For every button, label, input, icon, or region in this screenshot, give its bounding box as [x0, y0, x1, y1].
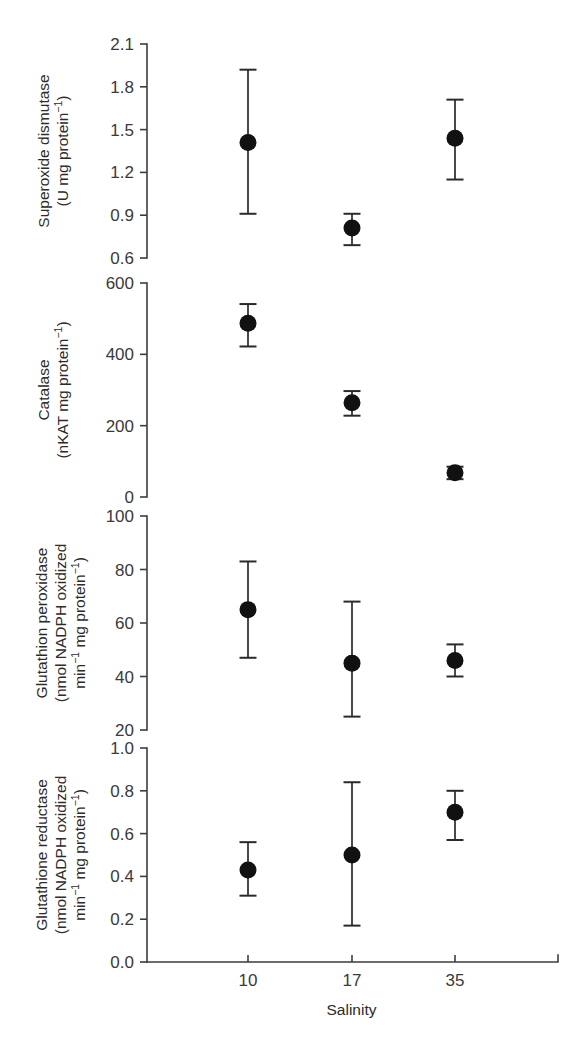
y-tick-label: 0.2: [110, 910, 134, 929]
data-point-group: [344, 214, 361, 245]
data-point-group: [447, 464, 464, 481]
y-tick-label: 1.8: [110, 78, 134, 97]
data-point-group: [240, 70, 257, 214]
y-axis-title-line: min−1 mg protein−1): [69, 789, 88, 921]
panel-catalase: 0200400600: [106, 274, 464, 507]
data-point-group: [344, 602, 361, 717]
data-marker: [240, 601, 257, 618]
data-marker: [344, 655, 361, 672]
data-marker: [344, 847, 361, 864]
data-marker: [447, 130, 464, 147]
panel-glutathione-reductase: 0.00.20.40.60.81.0: [110, 739, 463, 972]
y-tick-label: 600: [106, 274, 134, 293]
x-tick-label: 17: [343, 971, 362, 990]
y-tick-label: 200: [106, 417, 134, 436]
y-tick-label: 0.0: [110, 953, 134, 972]
data-point-group: [240, 842, 257, 896]
panel-glutathion-peroxidase: 20406080100: [106, 507, 464, 740]
y-axis-title-line: (nKAT mg protein−1): [52, 321, 71, 458]
figure-panel-stack: 0.60.91.21.51.82.10200400600204060801000…: [0, 0, 586, 1052]
y-axis-title-line: Superoxide dismutase: [35, 74, 52, 227]
y-axis-title-line: min−1 mg protein−1): [69, 557, 88, 689]
data-marker: [447, 464, 464, 481]
y-tick-label: 80: [115, 561, 134, 580]
y-tick-label: 0.6: [110, 825, 134, 844]
data-point-group: [344, 391, 361, 416]
y-axis-title-glutathion-peroxidase: Glutathion peroxidase(nmol NADPH oxidize…: [33, 544, 88, 703]
data-marker: [344, 394, 361, 411]
y-tick-label: 0: [125, 488, 134, 507]
y-tick-label: 400: [106, 345, 134, 364]
x-tick-label: 10: [239, 971, 258, 990]
data-point-group: [344, 782, 361, 925]
y-axis-title-line: (nmol NADPH oxidized: [52, 544, 69, 703]
data-marker: [447, 652, 464, 669]
y-axis-title-superoxide-dismutase: Superoxide dismutase(U mg protein−1): [35, 74, 71, 227]
multi-panel-scatter-chart: 0.60.91.21.51.82.10200400600204060801000…: [0, 0, 586, 1052]
y-tick-label: 0.9: [110, 206, 134, 225]
y-tick-label: 0.4: [110, 867, 134, 886]
y-axis-title-line: (nmol NADPH oxidized: [52, 776, 69, 935]
x-axis: 101735Salinity: [147, 955, 558, 1018]
data-point-group: [240, 304, 257, 346]
y-axis-title-line: (U mg protein−1): [52, 95, 71, 206]
data-marker: [240, 134, 257, 151]
y-tick-label: 0.6: [110, 249, 134, 268]
data-marker: [240, 315, 257, 332]
y-tick-label: 20: [115, 721, 134, 740]
data-point-group: [447, 100, 464, 180]
data-point-group: [240, 561, 257, 657]
y-tick-label: 0.8: [110, 782, 134, 801]
y-tick-label: 60: [115, 614, 134, 633]
x-axis-title: Salinity: [327, 1001, 377, 1018]
data-marker: [240, 861, 257, 878]
x-tick-label: 35: [446, 971, 465, 990]
data-point-group: [447, 791, 464, 840]
y-axis-title-glutathione-reductase: Glutathione reductase(nmol NADPH oxidize…: [33, 776, 88, 935]
y-axis-title-line: Glutathione reductase: [33, 779, 50, 931]
y-tick-label: 1.5: [110, 121, 134, 140]
panel-superoxide-dismutase: 0.60.91.21.51.82.1: [110, 35, 463, 268]
y-tick-label: 2.1: [110, 35, 134, 54]
data-marker: [344, 220, 361, 237]
y-tick-label: 100: [106, 507, 134, 526]
y-axis-title-line: Catalase: [35, 359, 52, 420]
data-marker: [447, 804, 464, 821]
data-point-group: [447, 644, 464, 676]
y-axis-title-line: Glutathion peroxidase: [33, 548, 50, 699]
y-tick-label: 1.2: [110, 163, 134, 182]
y-tick-label: 1.0: [110, 739, 134, 758]
y-tick-label: 40: [115, 668, 134, 687]
y-axis-title-catalase: Catalase(nKAT mg protein−1): [35, 321, 71, 458]
